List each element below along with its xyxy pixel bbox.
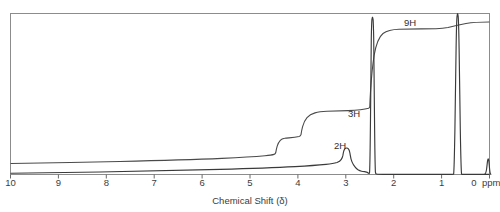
integration-curve — [11, 22, 489, 164]
plot-frame — [11, 14, 490, 175]
integral-label-3h: 3H — [348, 108, 360, 119]
axis-unit-label: ppm — [482, 177, 500, 188]
axis-tick-1: 1 — [430, 177, 454, 188]
axis-tick-6: 6 — [190, 177, 214, 188]
spectrum-trace — [11, 14, 489, 175]
axis-tick-5: 5 — [238, 177, 262, 188]
axis-tick-7: 7 — [142, 177, 166, 188]
axis-tick-2: 2 — [382, 177, 406, 188]
axis-tick-10: 10 — [0, 177, 23, 188]
integral-label-2h: 2H — [334, 140, 346, 151]
axis-tick-8: 8 — [94, 177, 118, 188]
axis-tick-3: 3 — [334, 177, 358, 188]
axis-tick-4: 4 — [286, 177, 310, 188]
nmr-spectrum-figure: 10 9 8 7 6 5 4 3 2 1 0 ppm Chemical Shif… — [0, 0, 500, 212]
integral-label-9h: 9H — [404, 17, 416, 28]
axis-tick-9: 9 — [46, 177, 70, 188]
x-axis-title: Chemical Shift (δ) — [0, 195, 500, 206]
